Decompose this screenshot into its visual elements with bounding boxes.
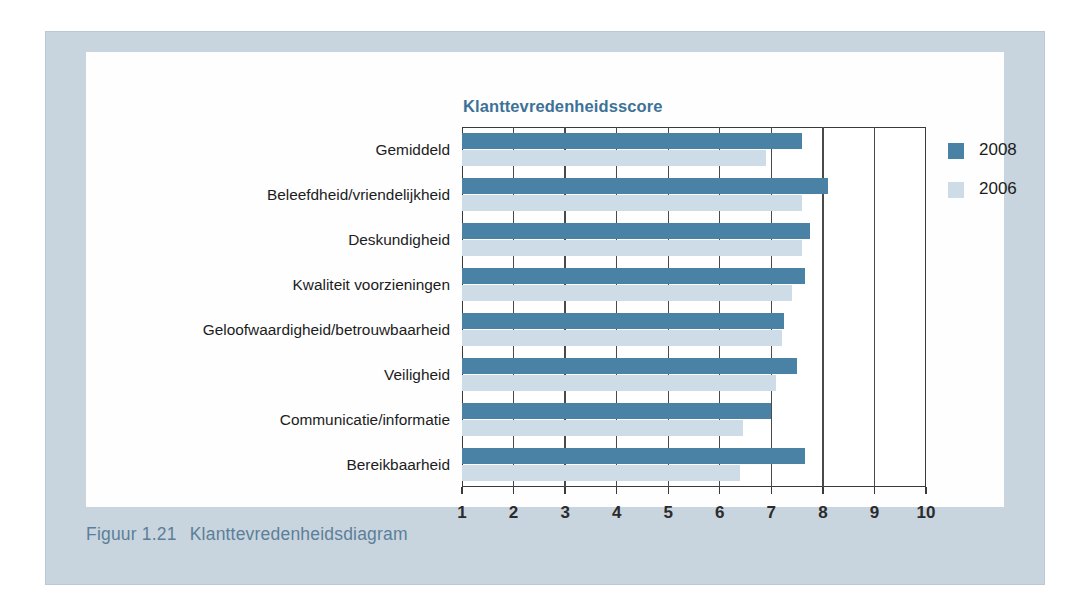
figure-panel: Klanttevredenheidsscore 12345678910 Gemi… xyxy=(46,32,1044,584)
x-axis-tick xyxy=(822,487,823,494)
bar-2006 xyxy=(462,420,743,436)
bar-2008 xyxy=(462,178,828,194)
x-axis-tick-label: 3 xyxy=(560,503,569,523)
category-label: Geloofwaardigheid/betrouwbaarheid xyxy=(203,321,450,339)
bar-2006 xyxy=(462,285,792,301)
x-axis-tick xyxy=(461,487,462,494)
bar-2008 xyxy=(462,133,802,149)
x-axis-tick-label: 9 xyxy=(870,503,879,523)
x-axis-tick xyxy=(771,487,772,494)
bar-2008 xyxy=(462,313,784,329)
x-axis-tick-label: 2 xyxy=(509,503,518,523)
x-axis-tick-label: 6 xyxy=(715,503,724,523)
category-label: Communicatie/informatie xyxy=(280,411,450,429)
legend-label: 2008 xyxy=(979,140,1017,160)
x-axis-tick-label: 1 xyxy=(457,503,466,523)
category-label: Gemiddeld xyxy=(376,141,450,159)
x-axis-tick xyxy=(874,487,875,494)
x-axis-tick-label: 7 xyxy=(767,503,776,523)
x-axis-tick xyxy=(513,487,514,494)
category-label: Beleefdheid/vriendelijkheid xyxy=(267,186,450,204)
category-label: Bereikbaarheid xyxy=(346,456,450,474)
figure-caption-number: Figuur 1.21 xyxy=(86,524,177,544)
page-root: Klanttevredenheidsscore 12345678910 Gemi… xyxy=(0,0,1090,616)
bar-2006 xyxy=(462,375,776,391)
category-label: Kwaliteit voorzieningen xyxy=(293,276,450,294)
bar-2008 xyxy=(462,223,810,239)
chart-card: Klanttevredenheidsscore 12345678910 Gemi… xyxy=(86,52,1004,507)
x-axis-tick-label: 10 xyxy=(917,503,936,523)
figure-caption-text: Klanttevredenheidsdiagram xyxy=(190,524,408,544)
x-axis-tick xyxy=(668,487,669,494)
x-axis-tick-label: 5 xyxy=(663,503,672,523)
x-axis-tick xyxy=(564,487,565,494)
legend-swatch-icon xyxy=(948,182,964,198)
bar-2008 xyxy=(462,358,797,374)
x-axis-tick xyxy=(616,487,617,494)
figure-caption: Figuur 1.21Klanttevredenheidsdiagram xyxy=(86,524,408,545)
x-axis-tick-label: 4 xyxy=(612,503,621,523)
bar-2006 xyxy=(462,465,740,481)
gridline xyxy=(874,127,875,487)
x-axis-tick xyxy=(719,487,720,494)
category-label: Deskundigheid xyxy=(348,231,450,249)
bar-2006 xyxy=(462,150,766,166)
bar-2008 xyxy=(462,268,805,284)
category-label: Veiligheid xyxy=(384,366,450,384)
chart-title: Klanttevredenheidsscore xyxy=(463,97,662,116)
bar-2008 xyxy=(462,403,771,419)
legend-label: 2006 xyxy=(979,179,1017,199)
bar-2006 xyxy=(462,195,802,211)
x-axis-tick-label: 8 xyxy=(818,503,827,523)
x-axis-tick xyxy=(925,487,926,494)
legend-swatch-icon xyxy=(948,143,964,159)
bar-2008 xyxy=(462,448,805,464)
bar-2006 xyxy=(462,240,802,256)
bar-2006 xyxy=(462,330,782,346)
